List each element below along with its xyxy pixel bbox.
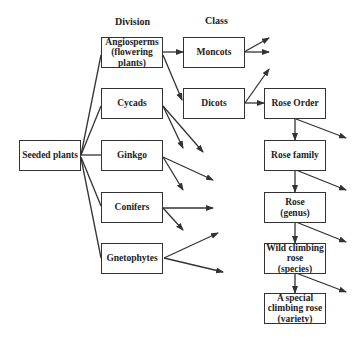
node-rose-genus: Rose (genus) bbox=[264, 192, 326, 223]
node-dicots: Dicots bbox=[183, 88, 245, 119]
node-conifers: Conifers bbox=[101, 192, 163, 223]
node-rose-order: Rose Order bbox=[264, 88, 326, 119]
node-gnetophytes: Gnetophytes bbox=[101, 243, 163, 274]
node-ginkgo: Ginkgo bbox=[101, 140, 163, 171]
class-header: Class bbox=[205, 15, 228, 26]
node-rose-family: Rose family bbox=[264, 140, 326, 171]
node-angiosperms: Angiosperms (flowering plants) bbox=[101, 37, 163, 68]
node-wild-climbing-rose: Wild climbing rose (species) bbox=[264, 243, 326, 274]
node-seeded-plants: Seeded plants bbox=[19, 140, 81, 171]
node-cycads: Cycads bbox=[101, 88, 163, 119]
node-moncots: Moncots bbox=[183, 37, 245, 68]
node-special-climbing-rose: A special climbing rose (variety) bbox=[264, 293, 326, 324]
division-header: Division bbox=[115, 16, 150, 27]
